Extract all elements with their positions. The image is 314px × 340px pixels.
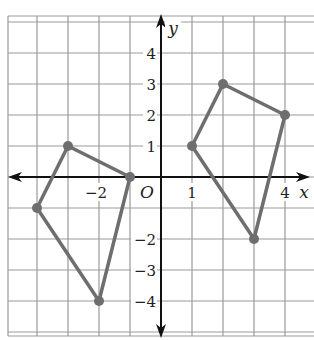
left-quadrilateral [37, 146, 130, 301]
right-quadrilateral [192, 84, 285, 239]
y-axis-label: y [167, 18, 178, 38]
y-tick-label: 2 [146, 107, 156, 125]
y-tick-label: 4 [146, 45, 156, 63]
x-tick-label: 1 [187, 184, 197, 202]
vertex-point [94, 296, 104, 306]
vertex-point [63, 141, 73, 151]
x-tick-label: −2 [85, 184, 107, 202]
coordinate-plane: −214Ox4321−2−3−4y [0, 0, 314, 340]
vertex-point [280, 110, 290, 120]
vertex-point [218, 79, 228, 89]
vertex-point [125, 172, 135, 182]
vertex-point [249, 234, 259, 244]
origin-label: O [140, 182, 154, 202]
y-tick-label: −3 [134, 262, 156, 280]
y-tick-label: −4 [134, 293, 156, 311]
y-tick-label: 3 [146, 76, 156, 94]
x-tick-label: 4 [280, 184, 290, 202]
vertex-point [32, 203, 42, 213]
y-tick-label: 1 [146, 138, 156, 156]
vertex-point [187, 141, 197, 151]
labels: −214Ox4321−2−3−4y [85, 18, 312, 311]
x-axis-label: x [299, 182, 309, 202]
y-tick-label: −2 [134, 231, 156, 249]
